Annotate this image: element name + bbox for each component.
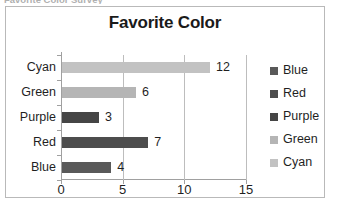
legend-label: Cyan xyxy=(283,156,312,169)
bar-blue xyxy=(62,162,111,173)
bar-purple xyxy=(62,112,99,123)
legend-label: Purple xyxy=(283,110,319,123)
category-label-cyan: Cyan xyxy=(4,55,56,80)
legend-swatch-icon xyxy=(270,90,278,98)
bar-row: 6 xyxy=(62,80,149,105)
bar-green xyxy=(62,87,136,98)
legend-item-purple[interactable]: Purple xyxy=(270,105,330,128)
legend-item-green[interactable]: Green xyxy=(270,128,330,151)
y-tick-mark xyxy=(57,105,61,106)
y-tick-mark xyxy=(57,155,61,156)
legend-item-red[interactable]: Red xyxy=(270,82,330,105)
gridline xyxy=(246,55,247,180)
bar-value-label: 3 xyxy=(105,111,112,124)
y-tick-mark xyxy=(57,130,61,131)
x-tick-label: 15 xyxy=(239,182,253,197)
legend-label: Red xyxy=(283,87,306,100)
legend-swatch-icon xyxy=(270,159,278,167)
y-tick-mark xyxy=(57,55,61,56)
legend-swatch-icon xyxy=(270,136,278,144)
legend-swatch-icon xyxy=(270,113,278,121)
bar-row: 4 xyxy=(62,155,124,180)
bar-cyan xyxy=(62,62,210,73)
bar-row: 7 xyxy=(62,130,161,155)
y-tick-mark xyxy=(57,80,61,81)
legend-label: Green xyxy=(283,133,318,146)
x-tick-label: 0 xyxy=(57,182,64,197)
bar-value-label: 12 xyxy=(216,61,230,74)
chart-legend: BlueRedPurpleGreenCyan xyxy=(270,59,330,174)
x-tick-label: 5 xyxy=(119,182,126,197)
bar-red xyxy=(62,137,148,148)
legend-swatch-icon xyxy=(270,67,278,75)
bar-row: 12 xyxy=(62,55,230,80)
bar-value-label: 7 xyxy=(154,136,161,149)
category-label-blue: Blue xyxy=(4,155,56,180)
legend-item-blue[interactable]: Blue xyxy=(270,59,330,82)
x-tick-label: 10 xyxy=(177,182,191,197)
chart-frame: Favorite Color 126374 CyanGreenPurpleRed… xyxy=(5,6,325,198)
bar-value-label: 4 xyxy=(117,161,124,174)
category-label-purple: Purple xyxy=(4,105,56,130)
bar-row: 3 xyxy=(62,105,112,130)
clipped-caption-text: Favorite Color Survey xyxy=(4,0,103,4)
category-label-green: Green xyxy=(4,80,56,105)
legend-label: Blue xyxy=(283,64,308,77)
category-label-red: Red xyxy=(4,130,56,155)
bar-value-label: 6 xyxy=(142,86,149,99)
chart-title: Favorite Color xyxy=(6,13,324,33)
plot-area: 126374 CyanGreenPurpleRedBlue 051015 xyxy=(61,55,246,180)
legend-item-cyan[interactable]: Cyan xyxy=(270,151,330,174)
